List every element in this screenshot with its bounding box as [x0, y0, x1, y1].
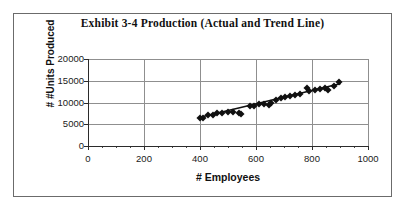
x-tick-mark [368, 146, 369, 150]
x-tick-label: 400 [180, 153, 220, 164]
x-tick-label: 0 [68, 153, 108, 164]
x-axis-line [88, 146, 368, 147]
y-tick-label: 0 [38, 140, 84, 151]
plot-area [88, 59, 368, 146]
gridline-vertical [368, 59, 369, 146]
y-tick-label: 5000 [38, 118, 84, 129]
y-tick-label: 15000 [38, 75, 84, 86]
x-tick-label: 800 [292, 153, 332, 164]
y-tick-label: 10000 [38, 97, 84, 108]
x-tick-label: 1000 [348, 153, 388, 164]
chart-figure: Exhibit 3-4 Production (Actual and Trend… [0, 0, 406, 214]
y-tick-label: 20000 [38, 53, 84, 64]
x-tick-label: 600 [236, 153, 276, 164]
chart-title: Exhibit 3-4 Production (Actual and Trend… [13, 17, 392, 29]
x-tick-label: 200 [124, 153, 164, 164]
y-axis-line [88, 59, 89, 146]
trend-line [88, 59, 368, 146]
x-axis-title: # Employees [88, 171, 368, 183]
